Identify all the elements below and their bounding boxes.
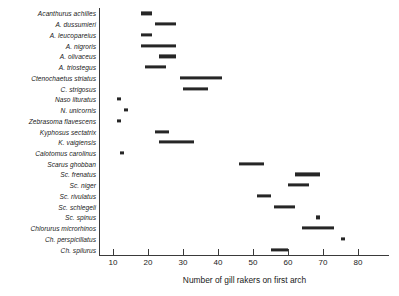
- y-axis-tick-label: Acanthurus achilles: [0, 10, 96, 17]
- range-bar: [141, 12, 152, 15]
- range-bar: [316, 216, 320, 219]
- range-bar: [257, 194, 271, 197]
- range-bar: [239, 162, 264, 165]
- x-axis-tick-mark: [148, 249, 149, 255]
- x-axis-tick-mark: [358, 249, 359, 255]
- range-bar: [141, 33, 152, 36]
- range-bar: [302, 227, 334, 230]
- x-axis-tick-label: 70: [311, 258, 335, 267]
- range-bar: [117, 119, 121, 122]
- range-bar: [274, 205, 295, 208]
- y-axis-tick-label: Naso lituratus: [0, 96, 96, 103]
- x-axis-tick-mark: [183, 249, 184, 255]
- range-bar: [155, 23, 176, 26]
- range-bar: [295, 173, 320, 176]
- range-bar: [180, 76, 222, 79]
- y-axis-tick-label: Sc. niger: [0, 182, 96, 189]
- x-axis-tick-label: 20: [136, 258, 160, 267]
- range-bar: [159, 141, 194, 144]
- x-axis-tick-label: 30: [171, 258, 195, 267]
- y-axis-tick-label: Sc. rivulatus: [0, 192, 96, 199]
- x-axis-line: [99, 255, 389, 256]
- x-axis-tick-label: 50: [241, 258, 265, 267]
- y-axis-tick-label: Chlorurus microrhinos: [0, 225, 96, 232]
- y-axis-tick-label: A. olivaceus: [0, 53, 96, 60]
- y-axis-tick-label: A. leucopareius: [0, 31, 96, 38]
- x-axis-tick-mark: [288, 249, 289, 255]
- range-bar: [117, 98, 121, 101]
- y-axis-tick-label: Ctenochaetus striatus: [0, 74, 96, 81]
- y-axis-tick-label: N. unicornis: [0, 107, 96, 114]
- y-axis-tick-label: Ch. spilurus: [0, 246, 96, 253]
- gill-raker-range-chart: Acanthurus achillesA. dussumieriA. leuco…: [0, 0, 399, 296]
- x-axis-tick-mark: [253, 249, 254, 255]
- x-axis-tick-label: 40: [206, 258, 230, 267]
- range-bar: [155, 130, 169, 133]
- y-axis-tick-label: Sc. schlegeli: [0, 203, 96, 210]
- range-bar: [288, 184, 309, 187]
- y-axis-tick-label: Zebrasoma flavescens: [0, 117, 96, 124]
- range-bar: [124, 108, 128, 111]
- x-axis-title: Number of gill rakers on first arch: [99, 275, 390, 285]
- x-axis-tick-mark: [323, 249, 324, 255]
- x-axis-tick-label: 10: [101, 258, 125, 267]
- range-bar: [145, 65, 166, 68]
- plot-area: [99, 8, 390, 255]
- x-axis-tick-mark: [218, 249, 219, 255]
- y-axis-tick-label: K. vaigiensis: [0, 139, 96, 146]
- y-axis-tick-label: Kyphosus sectatrix: [0, 128, 96, 135]
- x-axis-tick-mark: [113, 249, 114, 255]
- x-axis-tick-label: 80: [346, 258, 370, 267]
- y-axis-tick-label: Calotomus carolinus: [0, 149, 96, 156]
- range-bar: [183, 87, 208, 90]
- x-axis-tick-label: 60: [276, 258, 300, 267]
- range-bar: [159, 55, 177, 58]
- range-bar: [141, 44, 176, 47]
- range-bar: [120, 151, 124, 154]
- y-axis-tick-label: A. nigroris: [0, 42, 96, 49]
- y-axis-tick-label: C. strigosus: [0, 85, 96, 92]
- y-axis-tick-label: A. triostegus: [0, 64, 96, 71]
- y-axis-tick-label: Scarus ghobban: [0, 160, 96, 167]
- y-axis-tick-label: Sc. frenatus: [0, 171, 96, 178]
- y-axis-category-labels: Acanthurus achillesA. dussumieriA. leuco…: [0, 0, 96, 296]
- range-bar: [271, 248, 289, 251]
- y-axis-tick-label: Sc. spinus: [0, 214, 96, 221]
- range-bar: [341, 237, 345, 240]
- y-axis-tick-label: A. dussumieri: [0, 21, 96, 28]
- y-axis-tick-label: Ch. perspicillatus: [0, 235, 96, 242]
